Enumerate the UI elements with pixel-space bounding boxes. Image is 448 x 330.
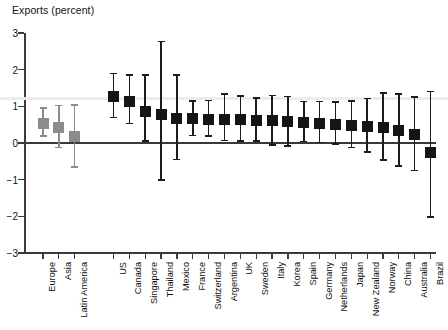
error-bar-cap-upper [142, 74, 149, 76]
data-point-marker[interactable] [38, 118, 49, 129]
data-point-marker[interactable] [425, 147, 436, 158]
data-point-marker[interactable] [378, 122, 389, 133]
x-axis-tick [287, 253, 288, 259]
error-bar-cap-lower [110, 117, 117, 119]
x-axis-label-latin-america: Latin America [79, 262, 89, 318]
x-axis-label-europe: Europe [47, 262, 57, 292]
x-axis-label-sweden: Sweden [260, 262, 270, 295]
zero-line [24, 142, 436, 144]
data-point-marker[interactable] [219, 114, 230, 125]
data-point-marker[interactable] [140, 106, 151, 117]
data-point-marker[interactable] [108, 91, 119, 102]
y-axis-tick-label: −2 [7, 211, 18, 222]
x-axis-tick [42, 253, 43, 259]
x-axis-label-germany: Germany [324, 262, 334, 300]
data-point-marker[interactable] [69, 131, 80, 142]
x-axis-label-singapore: Singapore [149, 262, 159, 304]
x-axis-label-brazil: Brazil [435, 262, 445, 285]
error-bar-cap-upper [237, 95, 244, 97]
x-axis-tick [414, 253, 415, 259]
x-axis-tick [208, 253, 209, 259]
y-axis-tick-label: 2 [12, 64, 18, 75]
x-axis-tick [145, 253, 146, 259]
x-axis-label-italy: Italy [276, 262, 286, 279]
x-axis-tick [430, 253, 431, 259]
error-bar-cap-lower [71, 166, 78, 168]
data-point-marker[interactable] [235, 114, 246, 125]
x-axis-label-japan: Japan [355, 262, 365, 287]
x-axis-tick [319, 253, 320, 259]
y-axis-tick [18, 252, 24, 253]
error-bar-cap-upper [427, 91, 434, 93]
x-axis-tick [351, 253, 352, 259]
error-bar-cap-upper [221, 93, 228, 95]
x-axis-label-mexico: Mexico [181, 262, 191, 291]
error-bar-cap-lower [126, 123, 133, 125]
error-bar-cap-lower [173, 159, 180, 161]
data-point-marker[interactable] [171, 113, 182, 124]
data-point-marker[interactable] [251, 115, 262, 126]
error-bar-cap-lower [411, 170, 418, 172]
x-axis-tick [58, 253, 59, 259]
data-point-marker[interactable] [267, 115, 278, 126]
data-point-marker[interactable] [330, 119, 341, 130]
error-bar-cap-lower [364, 151, 371, 153]
x-axis-tick [367, 253, 368, 259]
error-bar-cap-lower [221, 140, 228, 142]
chart-container: Exports (percent) 3210−1−2−3 EuropeAsiaL… [0, 0, 448, 330]
error-bar-cap-lower [284, 145, 291, 147]
data-point-marker[interactable] [124, 96, 135, 107]
data-point-marker[interactable] [346, 120, 357, 131]
error-bar-cap-lower [189, 135, 196, 137]
x-axis-label-uk: UK [244, 262, 254, 275]
x-axis-label-korea: Korea [292, 262, 302, 287]
error-bar-cap-upper [173, 74, 180, 76]
error-bar-cap-lower [332, 143, 339, 145]
data-point-marker[interactable] [393, 125, 404, 136]
x-axis-tick [398, 253, 399, 259]
error-bar-cap-lower [205, 135, 212, 137]
error-bar-cap-upper [269, 95, 276, 97]
data-point-marker[interactable] [187, 113, 198, 124]
data-point-marker[interactable] [409, 129, 420, 140]
error-bar-cap-lower [253, 140, 260, 142]
error-bar-cap-lower [237, 140, 244, 142]
x-axis-tick [129, 253, 130, 259]
x-axis-tick [160, 253, 161, 259]
error-bar-cap-upper [253, 97, 260, 99]
data-point-marker[interactable] [156, 109, 167, 120]
error-bar-cap-upper [348, 100, 355, 102]
data-point-marker[interactable] [53, 122, 64, 133]
x-axis-label-asia: Asia [63, 262, 73, 280]
x-axis-label-thailand: Thailand [165, 262, 175, 297]
x-axis-tick [224, 253, 225, 259]
x-axis-tick [176, 253, 177, 259]
error-bar-cap-lower [380, 159, 387, 161]
error-bar-cap-upper [40, 107, 47, 109]
x-axis-label-new-zealand: New Zealand [371, 262, 381, 316]
y-axis-tick [18, 142, 24, 143]
x-axis-line [24, 252, 436, 254]
data-point-marker[interactable] [282, 116, 293, 127]
x-axis-label-argentina: Argentina [229, 262, 239, 301]
error-bar-cap-upper [300, 101, 307, 103]
x-axis-label-netherlands: Netherlands [339, 262, 349, 312]
error-bar-cap-upper [205, 100, 212, 102]
error-bar-cap-upper [395, 93, 402, 95]
data-point-marker[interactable] [203, 114, 214, 125]
y-axis-tick [18, 216, 24, 217]
y-axis-tick-label: 1 [12, 101, 18, 112]
x-axis-tick [382, 253, 383, 259]
x-axis-label-norway: Norway [387, 262, 397, 293]
x-axis-tick [256, 253, 257, 259]
x-axis-tick [192, 253, 193, 259]
data-point-marker[interactable] [314, 118, 325, 129]
error-bar-cap-lower [40, 135, 47, 137]
error-bar-cap-lower [316, 142, 323, 144]
data-point-marker[interactable] [298, 117, 309, 128]
x-axis-tick [74, 253, 75, 259]
data-point-marker[interactable] [362, 121, 373, 132]
y-axis-tick [18, 32, 24, 33]
error-bar-cap-upper [110, 73, 117, 75]
y-axis-tick-label: 3 [12, 27, 18, 38]
